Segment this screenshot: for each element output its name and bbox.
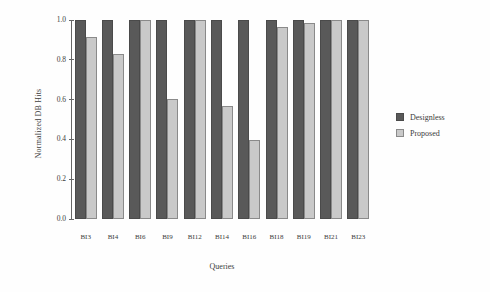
bar bbox=[167, 99, 178, 219]
bar bbox=[266, 20, 277, 219]
bar-group bbox=[156, 20, 178, 219]
bar bbox=[184, 20, 195, 219]
y-tick-label: 0.0 bbox=[57, 214, 66, 224]
y-tick: 0.2 bbox=[40, 174, 74, 184]
bar bbox=[140, 20, 151, 219]
y-tick-label: 1.0 bbox=[57, 15, 66, 25]
chart-legend: DesignlessProposed bbox=[396, 110, 445, 142]
bar-group bbox=[266, 20, 288, 219]
bar bbox=[320, 20, 331, 219]
bar bbox=[358, 20, 369, 219]
bar bbox=[238, 20, 249, 219]
bar-group bbox=[211, 20, 233, 219]
bar bbox=[75, 20, 86, 219]
bar-chart-figure: Normalized DB Hits 0.00.20.40.60.81.0 BI… bbox=[0, 0, 490, 292]
bar-group bbox=[75, 20, 97, 219]
bar bbox=[195, 20, 206, 219]
legend-item: Designless bbox=[396, 110, 445, 124]
bar-group bbox=[347, 20, 369, 219]
y-tick: 0.8 bbox=[40, 55, 74, 65]
bar bbox=[222, 106, 233, 219]
legend-swatch bbox=[396, 129, 404, 137]
legend-swatch bbox=[396, 113, 404, 121]
y-tick-label: 0.4 bbox=[57, 134, 66, 144]
y-tick: 0.4 bbox=[40, 134, 74, 144]
bar bbox=[102, 20, 113, 219]
bar bbox=[129, 20, 140, 219]
legend-item: Proposed bbox=[396, 126, 445, 140]
legend-label: Designless bbox=[410, 113, 445, 122]
bar bbox=[331, 20, 342, 219]
bar bbox=[293, 20, 304, 219]
y-tick-label: 0.6 bbox=[57, 95, 66, 105]
bar-group bbox=[293, 20, 315, 219]
plot-area bbox=[72, 20, 372, 219]
bar-group bbox=[102, 20, 124, 219]
bar bbox=[347, 20, 358, 219]
bar bbox=[304, 23, 315, 219]
bar bbox=[86, 37, 97, 219]
bar bbox=[211, 20, 222, 219]
bar bbox=[249, 140, 260, 219]
x-tick-label: BI23 bbox=[338, 233, 378, 241]
y-tick: 0.6 bbox=[40, 95, 74, 105]
y-tick-label: 0.2 bbox=[57, 174, 66, 184]
y-tick: 1.0 bbox=[40, 15, 74, 25]
x-axis-title: Queries bbox=[0, 262, 444, 271]
bar bbox=[156, 20, 167, 219]
bar-group bbox=[320, 20, 342, 219]
y-tick: 0.0 bbox=[40, 214, 74, 224]
x-axis-line bbox=[71, 219, 72, 220]
bar-group bbox=[129, 20, 151, 219]
legend-label: Proposed bbox=[410, 129, 440, 138]
bar-group bbox=[184, 20, 206, 219]
bar bbox=[277, 27, 288, 219]
bar bbox=[113, 54, 124, 219]
bar-group bbox=[238, 20, 260, 219]
y-tick-label: 0.8 bbox=[57, 55, 66, 65]
